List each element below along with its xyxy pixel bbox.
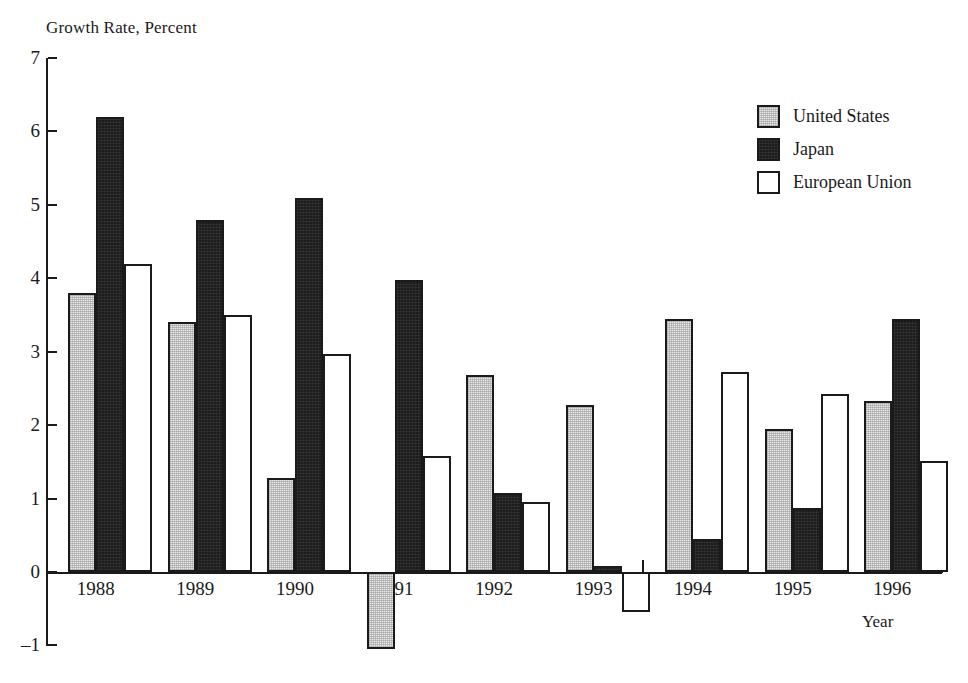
bar-us-1988 bbox=[68, 293, 96, 572]
legend-label: United States bbox=[793, 106, 890, 127]
bar-jp-1989 bbox=[196, 220, 224, 572]
y-tick-label: 4 bbox=[0, 268, 40, 287]
legend-item-eu: European Union bbox=[757, 166, 911, 199]
bar-eu-1988 bbox=[124, 264, 152, 572]
y-tick-label: 6 bbox=[0, 121, 40, 140]
bar-eu-1992 bbox=[522, 502, 550, 572]
group-label-1990: 1990 bbox=[245, 578, 345, 600]
y-tick-label: 1 bbox=[0, 489, 40, 508]
y-tick-label: 3 bbox=[0, 342, 40, 361]
bar-jp-1992 bbox=[494, 493, 522, 572]
growth-rate-bar-chart: Growth Rate, Percent 76543210–1 19881989… bbox=[0, 0, 968, 683]
bar-us-1995 bbox=[765, 429, 793, 572]
bar-eu-1996 bbox=[920, 461, 948, 572]
bar-jp-1994 bbox=[693, 539, 721, 572]
legend-label: Japan bbox=[793, 139, 834, 160]
bar-eu-1991 bbox=[423, 456, 451, 572]
y-tick-label: 2 bbox=[0, 415, 40, 434]
bar-eu-1990 bbox=[323, 354, 351, 572]
legend-swatch-us-icon bbox=[757, 105, 780, 128]
bar-eu-1993 bbox=[622, 572, 650, 612]
legend-item-jp: Japan bbox=[757, 133, 911, 166]
group-label-1992: 1992 bbox=[444, 578, 544, 600]
x-axis-title: Year bbox=[862, 612, 893, 632]
y-tick-label: 7 bbox=[0, 48, 40, 67]
bar-us-1996 bbox=[864, 401, 892, 572]
bar-jp-1988 bbox=[96, 117, 124, 572]
legend-label: European Union bbox=[793, 172, 911, 193]
bar-us-1991 bbox=[367, 572, 395, 649]
bar-jp-1995 bbox=[793, 508, 821, 572]
bar-jp-1991 bbox=[395, 280, 423, 572]
y-tick-label: 5 bbox=[0, 195, 40, 214]
bar-us-1989 bbox=[168, 322, 196, 572]
group-label-1996: 1996 bbox=[842, 578, 942, 600]
group-label-1994: 1994 bbox=[643, 578, 743, 600]
legend-swatch-jp-icon bbox=[757, 138, 780, 161]
y-tick-label: –1 bbox=[0, 635, 40, 654]
bar-jp-1990 bbox=[295, 198, 323, 572]
bar-us-1992 bbox=[466, 375, 494, 572]
bar-us-1993 bbox=[566, 405, 594, 572]
bar-jp-1996 bbox=[892, 319, 920, 572]
bar-us-1994 bbox=[665, 319, 693, 572]
y-tick-label: 0 bbox=[0, 562, 40, 581]
bar-eu-1994 bbox=[721, 372, 749, 572]
group-label-1995: 1995 bbox=[743, 578, 843, 600]
bar-jp-1993 bbox=[594, 566, 622, 572]
bar-us-1990 bbox=[267, 478, 295, 572]
y-axis-title: Growth Rate, Percent bbox=[46, 18, 197, 38]
bar-eu-1995 bbox=[821, 394, 849, 572]
group-label-1989: 1989 bbox=[146, 578, 246, 600]
group-label-1988: 1988 bbox=[46, 578, 146, 600]
chart-legend: United StatesJapanEuropean Union bbox=[757, 100, 911, 199]
legend-item-us: United States bbox=[757, 100, 911, 133]
legend-swatch-eu-icon bbox=[757, 171, 780, 194]
bar-eu-1989 bbox=[224, 315, 252, 572]
